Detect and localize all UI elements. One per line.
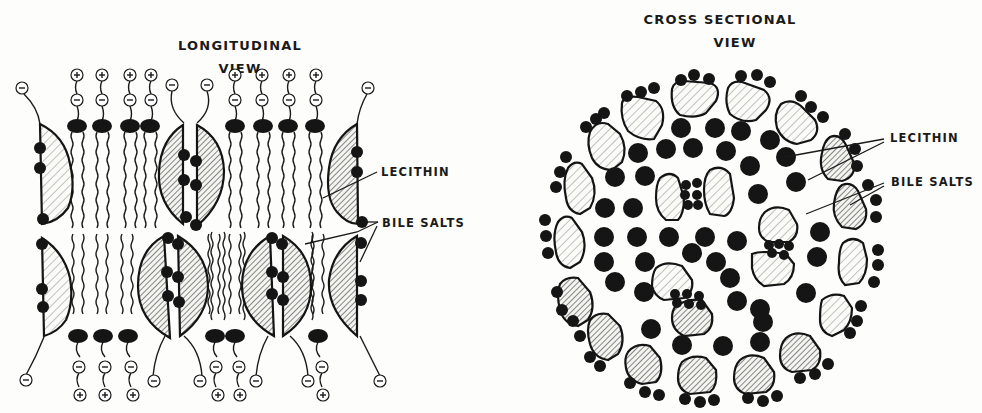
- bile-salt-unit: [726, 82, 769, 122]
- bile-salt-unit: [329, 236, 357, 336]
- minus-charge-icon: [73, 361, 85, 373]
- minus-charge-icon: [201, 79, 213, 91]
- lecithin-head: [253, 119, 273, 133]
- plus-charge-icon: [124, 69, 136, 81]
- bile-salt-unit: [554, 217, 584, 268]
- minus-charge-icon: [283, 94, 295, 106]
- bile-salt-unit: [780, 333, 820, 372]
- lecithin-molecule: [253, 69, 273, 228]
- minus-charge-icon: [145, 94, 157, 106]
- bile-salt-unit: [759, 207, 797, 242]
- lecithin-head: [67, 119, 87, 133]
- minus-charge-icon: [256, 94, 268, 106]
- bile-salt-unit: [678, 357, 716, 394]
- lecithin-head: [118, 329, 138, 343]
- lecithin-head: [93, 329, 113, 343]
- lecithin-head: [308, 329, 328, 343]
- plus-charge-icon: [74, 389, 86, 401]
- lecithin-molecule: [305, 69, 325, 228]
- lecithin-head: [92, 119, 112, 133]
- minus-charge-icon: [362, 82, 374, 94]
- minus-charge-icon: [125, 361, 137, 373]
- minus-charge-icon: [71, 94, 83, 106]
- lecithin-molecule: [68, 234, 88, 401]
- bile-salt-unit: [159, 125, 183, 224]
- lecithin-molecule: [93, 234, 113, 401]
- minus-charge-icon: [166, 79, 178, 91]
- bile-salt-unit: [821, 136, 854, 181]
- bile-salt-unit: [178, 236, 208, 336]
- plus-charge-icon: [99, 389, 111, 401]
- plus-charge-icon: [229, 69, 241, 81]
- lecithin-head: [278, 119, 298, 133]
- lecithin-molecule: [118, 234, 139, 401]
- minus-charge-icon: [96, 94, 108, 106]
- lecithin-molecule: [140, 69, 160, 228]
- lecithin-molecule: [225, 69, 245, 228]
- bile-salt-unit: [839, 239, 867, 285]
- lecithin-molecule: [205, 234, 225, 401]
- bile-salt-unit: [834, 184, 867, 229]
- plus-charge-icon: [145, 69, 157, 81]
- minus-charge-icon: [229, 94, 241, 106]
- minus-charge-icon: [16, 82, 28, 94]
- bile-salt-unit: [564, 163, 594, 214]
- plus-charge-icon: [127, 389, 139, 401]
- lecithin-molecule: [92, 69, 112, 228]
- lecithin-head: [225, 119, 245, 133]
- minus-charge-icon: [374, 375, 386, 387]
- minus-charge-icon: [148, 375, 160, 387]
- lecithin-head: [225, 329, 245, 343]
- bile-salt-unit: [704, 168, 734, 216]
- lecithin-head: [205, 329, 225, 343]
- plus-charge-icon: [96, 69, 108, 81]
- bile-salt-unit: [656, 174, 684, 220]
- plus-charge-icon: [234, 389, 246, 401]
- bile-salt-unit: [734, 355, 774, 394]
- minus-charge-icon: [99, 361, 111, 373]
- minus-charge-icon: [124, 94, 136, 106]
- minus-charge-icon: [316, 361, 328, 373]
- bile-salt-unit: [197, 125, 224, 226]
- lecithin-molecule: [120, 69, 140, 228]
- minus-charge-icon: [250, 375, 262, 387]
- lecithin-head: [140, 119, 160, 133]
- bile-salt-unit: [283, 236, 311, 336]
- minus-charge-icon: [302, 375, 314, 387]
- plus-charge-icon: [310, 69, 322, 81]
- plus-charge-icon: [283, 69, 295, 81]
- lecithin-head: [68, 329, 88, 343]
- lecithin-head: [305, 119, 325, 133]
- plus-charge-icon: [317, 389, 329, 401]
- bile-salt-unit: [588, 123, 624, 170]
- bile-salt-unit: [40, 124, 73, 224]
- lecithin-head: [120, 119, 140, 133]
- lecithin-molecule: [278, 69, 298, 228]
- inner-bile-salt-pairs: [652, 168, 797, 336]
- longitudinal-view: [16, 69, 386, 401]
- minus-charge-icon: [194, 375, 206, 387]
- micelle-diagram: [0, 0, 982, 413]
- plus-charge-icon: [256, 69, 268, 81]
- plus-charge-icon: [212, 389, 224, 401]
- minus-charge-icon: [310, 94, 322, 106]
- cross-sectional-view: [539, 69, 884, 408]
- bile-salt-unit: [622, 97, 664, 140]
- minus-charge-icon: [210, 361, 222, 373]
- bile-salt-unit: [242, 236, 274, 336]
- minus-charge-icon: [20, 374, 32, 386]
- plus-charge-icon: [71, 69, 83, 81]
- bile-salt-unit: [138, 236, 170, 338]
- minus-charge-icon: [233, 361, 245, 373]
- bile-salt-unit: [672, 81, 718, 117]
